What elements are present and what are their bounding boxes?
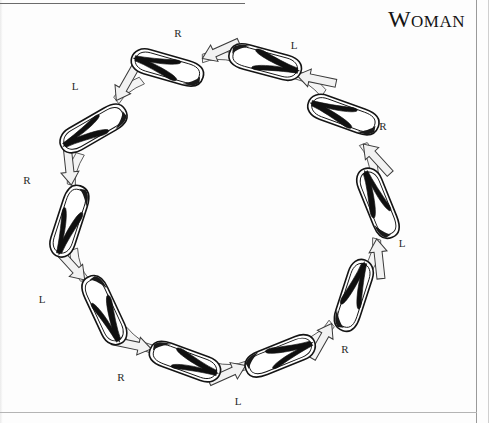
page-canvas: Woman RLRLRLRLRL: [0, 0, 489, 423]
footprint-cycle-diagram: [0, 0, 489, 423]
shoe-l-7: [46, 182, 93, 260]
foot-label-8: R: [23, 174, 30, 186]
shoe-r-8: [55, 99, 132, 158]
foot-label-7: L: [39, 293, 46, 305]
foot-label-2: R: [379, 120, 386, 132]
shoe-r-6: [77, 271, 131, 349]
shoe-l-3: [331, 256, 378, 334]
shoe-l-1: [304, 90, 382, 139]
foot-label-5: L: [235, 395, 242, 407]
foot-label-4: R: [341, 343, 348, 355]
shoe-r-4: [241, 330, 319, 381]
shoe-l-5: [146, 337, 224, 386]
foot-label-1: L: [291, 39, 298, 51]
foot-label-9: L: [72, 80, 79, 92]
foot-label-6: R: [117, 371, 124, 383]
foot-label-3: L: [399, 237, 406, 249]
shoe-layer: [46, 40, 403, 386]
shoe-r-2: [353, 164, 404, 242]
foot-label-0: R: [174, 27, 181, 39]
